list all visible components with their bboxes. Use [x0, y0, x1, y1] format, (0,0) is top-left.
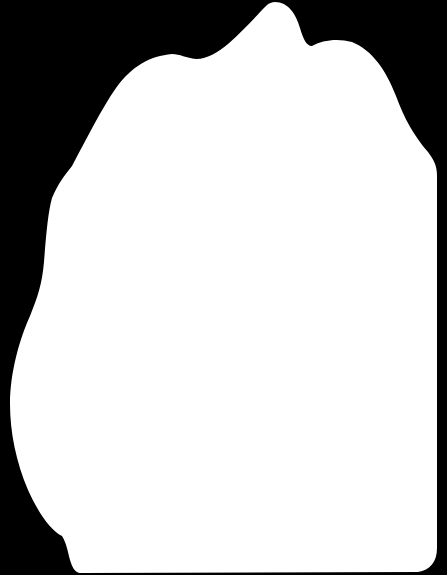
silhouette-shape	[0, 0, 447, 575]
mask-canvas	[0, 0, 447, 575]
